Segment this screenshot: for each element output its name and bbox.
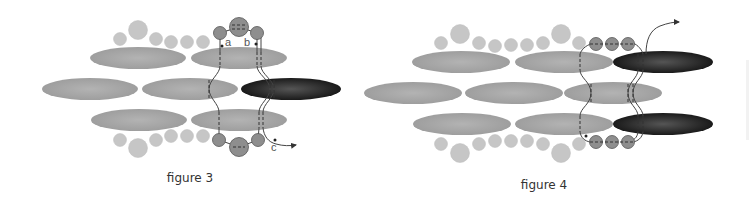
figure-3: a b c figure 3 [42,18,341,186]
round-bead [489,40,502,53]
oval-bead [90,47,186,69]
cluster-bead-large [230,18,249,37]
bottom-edge-beads [435,135,586,163]
thread-start-dot [255,43,258,46]
oval-bead [364,82,462,104]
oval-bead [515,51,613,73]
oval-bead [515,113,613,135]
oval-bead-dark [613,113,713,135]
round-bead [150,134,163,147]
round-bead [114,33,127,46]
diagram-canvas: a b c figure 3 [0,0,749,204]
round-bead [150,33,163,46]
oval-bead [412,51,510,73]
round-bead [521,39,534,52]
round-bead [197,36,210,49]
oval-bead [465,82,563,104]
figure-4: figure 4 [364,22,713,192]
bottom-cluster-beads [213,134,265,157]
oval-bead [564,82,662,104]
round-bead-large [451,25,470,44]
round-bead [165,36,178,49]
oval-bead [413,113,511,135]
round-bead [537,37,550,50]
round-bead [505,39,518,52]
oval-bead [91,109,187,131]
round-bead-large [552,25,571,44]
figure-3-caption: figure 3 [167,171,213,185]
top-edge-beads [435,25,586,53]
oval-bead [142,78,238,100]
label-a: a [225,36,232,48]
oval-bead-dark [241,78,341,100]
round-bead [181,36,194,49]
round-bead [489,135,502,148]
round-bead [473,138,486,151]
oval-bead-dark [613,51,713,73]
round-bead [114,134,127,147]
cluster-bead [252,134,265,147]
thread-start-dot [585,135,588,138]
round-bead-large [451,144,470,163]
round-bead [435,37,448,50]
round-bead-large [129,139,148,158]
oval-beads [42,47,341,131]
cluster-bead [251,27,264,40]
round-bead [435,138,448,151]
label-c: c [271,141,277,153]
round-bead-large [129,21,148,40]
oval-beads [364,51,713,135]
top-edge-beads [114,21,210,49]
figure-4-caption: figure 4 [521,178,567,192]
label-b: b [244,36,250,48]
round-bead [521,135,534,148]
round-bead [181,130,194,143]
round-bead [505,135,518,148]
round-bead [537,138,550,151]
round-bead [165,130,178,143]
cluster-bead [213,134,226,147]
oval-bead [191,109,287,131]
oval-bead [191,47,287,69]
round-bead [197,130,210,143]
round-bead-large [552,144,571,163]
thread-start-dot [221,45,224,48]
round-bead [473,37,486,50]
bottom-edge-beads [114,130,210,158]
oval-bead [42,78,138,100]
